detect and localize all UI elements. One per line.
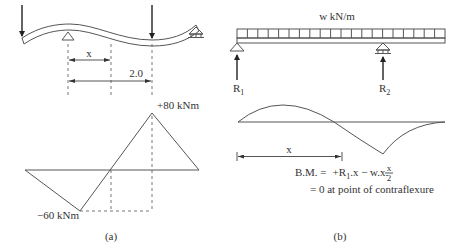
reaction-r1-label: R1 bbox=[233, 82, 244, 97]
udl-load-block bbox=[237, 29, 445, 38]
roller-support-icon bbox=[188, 27, 204, 38]
dimension-distance-label: 2.0 bbox=[129, 67, 143, 79]
dimension-2-0: 2.0 bbox=[69, 67, 151, 81]
roller-support-b-icon bbox=[375, 43, 391, 54]
reaction-r2-label: R2 bbox=[379, 82, 390, 97]
load-intensity-label: w kN/m bbox=[319, 10, 355, 22]
pinned-support-icon bbox=[62, 32, 74, 40]
deflected-beam bbox=[22, 24, 199, 46]
bending-moment-diagram-a bbox=[25, 113, 199, 211]
figure-b: w kN/m bbox=[230, 10, 445, 243]
dimension-x-b: x bbox=[237, 143, 342, 161]
caption-b: (b) bbox=[334, 230, 347, 243]
max-positive-moment-label: +80 kNm bbox=[157, 99, 199, 111]
dimension-x: x bbox=[69, 47, 110, 60]
dimension-x-label: x bbox=[86, 47, 92, 59]
figure-a: x 2.0 +80 kNm −60 kNm (a) bbox=[22, 5, 204, 243]
caption-a: (a) bbox=[105, 230, 118, 243]
bending-moment-diagram-b bbox=[238, 105, 445, 154]
fraction-numerator: x bbox=[387, 163, 392, 173]
dimension-x-b-label: x bbox=[286, 143, 292, 155]
bending-moment-equation: B.M. =+R1.x − w.x. x 2 = 0 at point of c… bbox=[295, 163, 434, 195]
fraction-denominator: 2 bbox=[387, 173, 392, 183]
max-negative-moment-label: −60 kNm bbox=[37, 209, 79, 221]
pinned-support-b-icon bbox=[230, 43, 244, 51]
diagram-canvas: x 2.0 +80 kNm −60 kNm (a) w kN/m bbox=[0, 0, 468, 252]
beam-b bbox=[237, 38, 445, 43]
equation-line-2: = 0 at point of contraflexure bbox=[310, 183, 434, 195]
equation-line-1: B.M. =+R1.x − w.x. bbox=[295, 166, 389, 181]
